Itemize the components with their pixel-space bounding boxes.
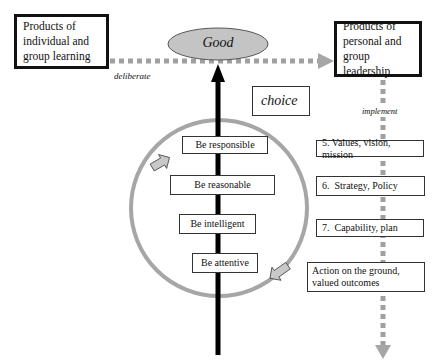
deliberate-label: deliberate bbox=[114, 71, 151, 82]
impl-step-values: 5. Values, vision, mission bbox=[316, 140, 424, 157]
cycle-arrow-top-icon bbox=[148, 151, 173, 175]
leadership-products-label: Products of personal and group leadershi… bbox=[343, 19, 419, 79]
learning-products-box: Products of individual and group learnin… bbox=[14, 14, 109, 69]
cycle-step-label: Be reasonable bbox=[194, 179, 250, 191]
cycle-step-label: Be attentive bbox=[201, 257, 249, 269]
implement-label: implement bbox=[361, 106, 398, 117]
ascent-arrowhead-icon bbox=[211, 64, 225, 82]
cycle-step-responsible: Be responsible bbox=[182, 136, 268, 154]
cycle-step-label: Be responsible bbox=[195, 139, 254, 151]
learning-products-label: Products of individual and group learnin… bbox=[23, 19, 106, 64]
cycle-step-label: Be intelligent bbox=[190, 218, 244, 230]
impl-step-label: 7. Capability, plan bbox=[322, 222, 398, 234]
choice-box: choice bbox=[252, 86, 310, 116]
implement-arrowhead-icon bbox=[375, 345, 391, 359]
choice-label: choice bbox=[261, 95, 298, 107]
impl-step-capability: 7. Capability, plan bbox=[316, 219, 424, 237]
impl-step-label: 5. Values, vision, mission bbox=[322, 137, 423, 161]
deliberate-arrowhead-icon bbox=[318, 53, 334, 69]
impl-step-strategy: 6. Strategy, Policy bbox=[316, 176, 425, 196]
impl-step-label: 6. Strategy, Policy bbox=[322, 180, 398, 192]
impl-step-label: Action on the ground, valued outcomes bbox=[312, 265, 422, 289]
impl-step-action: Action on the ground, valued outcomes bbox=[307, 262, 425, 292]
cycle-step-attentive: Be attentive bbox=[192, 253, 258, 273]
leadership-products-box: Products of personal and group leadershi… bbox=[334, 21, 422, 77]
good-label: Good bbox=[168, 34, 268, 52]
cycle-step-intelligent: Be intelligent bbox=[179, 214, 256, 234]
cycle-step-reasonable: Be reasonable bbox=[170, 175, 275, 195]
